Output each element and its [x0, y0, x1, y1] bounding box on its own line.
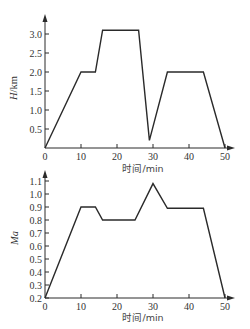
- y-tick-label: 0.6: [30, 241, 43, 252]
- x-axis-label: 时间/min: [122, 163, 163, 174]
- y-axis-arrow-icon: [43, 14, 48, 22]
- series-line: [45, 184, 225, 298]
- y-tick-label: 3.0: [30, 29, 43, 40]
- x-axis-arrow-icon: [227, 296, 235, 301]
- x-tick-label: 20: [112, 301, 122, 312]
- x-tick-label: 10: [76, 301, 86, 312]
- y-tick-label: 0.4: [30, 267, 43, 278]
- x-tick-label: 30: [148, 301, 158, 312]
- y-tick-label: 2.5: [30, 48, 43, 59]
- x-tick-label: 50: [220, 151, 230, 162]
- x-tick-label: 20: [112, 151, 122, 162]
- y-tick-label: 0.3: [30, 280, 43, 291]
- y-tick-label: 0.7: [30, 228, 43, 239]
- y-tick-label: 1.0: [30, 189, 43, 200]
- y-tick-label: 0.8: [30, 215, 43, 226]
- x-tick-label: 40: [184, 151, 194, 162]
- y-tick-label: 0.5: [30, 124, 43, 135]
- y-axis-label: H/km: [8, 76, 19, 101]
- y-tick-label: 2.0: [30, 67, 43, 78]
- altitude-mach-profile-charts: 010203040500.51.01.52.02.53.0H/km时间/min0…: [0, 0, 250, 329]
- mach-chart: 010203040500.20.30.40.50.60.70.80.91.01.…: [9, 170, 235, 323]
- y-tick-label: 0.2: [30, 293, 43, 304]
- y-tick-label: 1.0: [30, 105, 43, 116]
- y-axis-label: Ma: [9, 231, 20, 246]
- x-tick-label: 50: [220, 301, 230, 312]
- y-tick-label: 0.9: [30, 202, 43, 213]
- series-line: [45, 30, 225, 148]
- y-tick-label: 0.5: [30, 254, 43, 265]
- x-tick-label: 40: [184, 301, 194, 312]
- y-axis-arrow-icon: [43, 170, 48, 178]
- x-tick-label: 0: [43, 301, 48, 312]
- x-tick-label: 30: [148, 151, 158, 162]
- x-tick-label: 0: [43, 151, 48, 162]
- y-tick-label: 1.5: [30, 86, 43, 97]
- x-axis-label: 时间/min: [122, 312, 163, 323]
- y-tick-label: 1.1: [30, 176, 43, 187]
- x-axis-arrow-icon: [227, 146, 235, 151]
- altitude-chart: 010203040500.51.01.52.02.53.0H/km时间/min: [8, 14, 235, 174]
- x-tick-label: 10: [76, 151, 86, 162]
